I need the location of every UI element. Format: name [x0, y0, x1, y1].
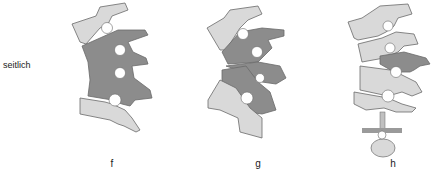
- vertebrae-h-illustration: [340, 0, 433, 183]
- caption-g: g: [248, 158, 268, 169]
- panel-f-vertebral-block: f: [60, 0, 160, 150]
- caption-h: h: [383, 158, 403, 169]
- vertebrae-g-illustration: [200, 0, 300, 150]
- panel-g-vertebral-block: g: [200, 0, 300, 150]
- panel-h-vertebral-block: h: [340, 0, 433, 183]
- vertebrae-f-illustration: [60, 0, 160, 150]
- row-label-seitlich: seitlich: [3, 60, 31, 70]
- caption-f: f: [102, 158, 122, 169]
